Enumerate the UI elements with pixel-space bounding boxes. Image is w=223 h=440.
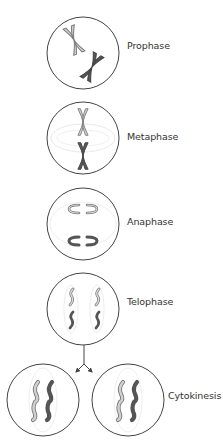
anaphase-cell	[47, 188, 119, 260]
division-arrow-icon	[77, 345, 91, 371]
chromatid-dark-icon	[96, 312, 99, 328]
label-prophase: Prophase	[127, 40, 170, 51]
chromatid-light-icon	[96, 289, 99, 305]
label-anaphase: Anaphase	[127, 216, 173, 227]
label-metaphase: Metaphase	[127, 131, 178, 142]
label-telophase: Telophase	[127, 296, 173, 307]
chromatid-dark-icon	[70, 312, 73, 328]
cytokinesis-cell-right	[92, 364, 164, 436]
metaphase-cell	[47, 102, 119, 174]
cytokinesis-cell-left	[7, 364, 79, 436]
label-cytokinesis: Cytokinesis	[168, 390, 221, 401]
chromatid-light-icon	[70, 289, 73, 305]
mitosis-diagram	[0, 0, 223, 440]
telophase-cell	[47, 273, 119, 345]
prophase-cell	[47, 17, 119, 89]
